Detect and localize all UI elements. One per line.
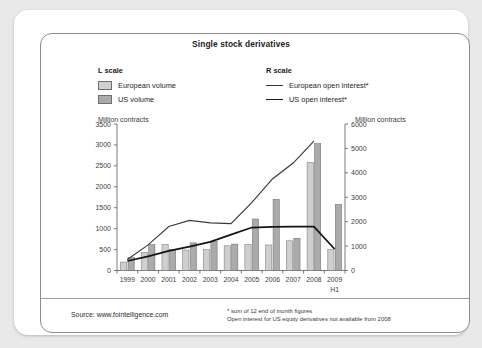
legend-item-us-volume: US volume <box>98 93 176 106</box>
page-title: Single stock derivatives <box>14 39 468 49</box>
footer-divider <box>41 298 469 299</box>
legend-left-scale: L scale European volume US volume <box>98 66 176 107</box>
legend-item-european-open-interest: European open interest* <box>266 79 369 92</box>
legend-right-scale: R scale European open interest* US open … <box>266 66 369 107</box>
footnotes: * sum of 12 end of month figures Open in… <box>227 307 391 324</box>
bar-swatch-icon-european <box>98 81 112 90</box>
line-swatch-icon-european <box>266 85 283 86</box>
right-axis-caption: Million contracts <box>355 116 406 124</box>
left-axis-caption: Million contracts <box>98 116 149 124</box>
legend-item-us-open-interest: US open interest* <box>266 93 369 106</box>
bar-swatch-icon-us <box>98 95 112 104</box>
screenshot-root: Single stock derivatives L scale Europea… <box>0 0 482 348</box>
legend-label-european-open-interest: European open interest* <box>289 81 369 90</box>
legend-right-heading: R scale <box>266 66 369 75</box>
legend-item-european-volume: European volume <box>98 79 176 92</box>
legend-label-us-volume: US volume <box>118 95 154 104</box>
source-note: Source: www.fointelligence.com <box>71 311 168 318</box>
footnote-line-1: * sum of 12 end of month figures <box>227 307 391 315</box>
legend-left-heading: L scale <box>98 66 176 75</box>
legend-label-us-open-interest: US open interest* <box>289 95 347 104</box>
line-swatch-icon-us <box>266 99 283 100</box>
legend-label-european-volume: European volume <box>118 81 176 90</box>
footnote-line-2: Open interest for US equity derivatives … <box>227 315 391 323</box>
chart-card: Single stock derivatives L scale Europea… <box>14 10 468 335</box>
